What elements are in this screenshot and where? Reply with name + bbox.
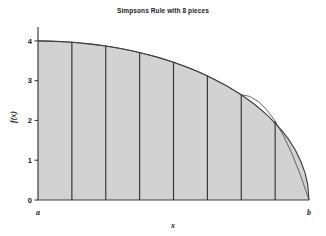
y-axis-tick-label: 1: [28, 156, 32, 165]
chart-page: Simpsons Rule with 8 pieces 01234 a b x …: [0, 0, 326, 236]
y-axis-tick-label: 0: [28, 196, 32, 205]
y-axis-ticks: 01234: [28, 37, 38, 205]
x-axis-title: x: [170, 221, 175, 230]
x-tick-label-b: b: [307, 208, 311, 217]
y-axis-tick-label: 3: [28, 76, 32, 85]
y-axis-tick-label: 4: [28, 37, 33, 46]
y-axis-title: f(x): [9, 111, 18, 123]
chart-plot-area: 01234 a b x f(x): [0, 0, 326, 236]
x-tick-label-a: a: [36, 208, 40, 217]
y-axis-tick-label: 2: [28, 116, 32, 125]
